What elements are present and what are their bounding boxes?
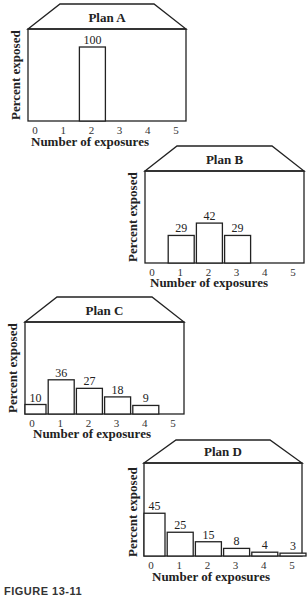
chart-plan-d: Plan D450251152834435 [144, 440, 302, 556]
chart-plan-b: Plan B029142229345 [145, 146, 304, 263]
bar-value-label: 3 [290, 539, 296, 553]
bar-value-label: 29 [175, 221, 187, 235]
chart-title: Plan B [206, 152, 244, 167]
x-tick-label: 5 [289, 559, 295, 571]
y-axis-label-plan-d: Percent exposed [125, 467, 141, 557]
chart-plan-c: Plan C100361272183945 [25, 297, 184, 414]
y-axis-label-plan-a: Percent exposed [8, 30, 24, 120]
bar [280, 553, 306, 556]
bar-value-label: 100 [83, 33, 101, 47]
bar [168, 235, 194, 263]
bar-value-label: 29 [232, 221, 244, 235]
bar [252, 552, 278, 556]
bar [79, 47, 105, 121]
x-tick-label: 5 [290, 266, 296, 278]
x-tick-label: 5 [170, 417, 176, 429]
chart-svg: Plan D450251152834435 [144, 440, 302, 576]
bar [105, 397, 131, 414]
chart-svg: Plan B029142229345 [145, 146, 304, 283]
plot-frame [28, 29, 186, 121]
x-axis-label-plan-b: Number of exposures [150, 275, 268, 291]
bar [224, 548, 250, 556]
bar [133, 405, 159, 414]
bar [25, 405, 46, 415]
bar [48, 380, 74, 414]
bar-value-label: 9 [143, 391, 149, 405]
bar [195, 542, 221, 556]
chart-title: Plan C [86, 303, 124, 318]
bar [76, 388, 102, 414]
bar-value-label: 8 [234, 534, 240, 548]
chart-title: Plan D [204, 444, 242, 459]
x-axis-label-plan-d: Number of exposures [152, 569, 270, 585]
chart-title: Plan A [88, 10, 126, 25]
bar [167, 532, 193, 556]
bar-value-label: 25 [174, 518, 186, 532]
y-axis-label-plan-c: Percent exposed [5, 323, 21, 413]
chart-svg: Plan A011002345 [28, 4, 186, 141]
bar-value-label: 42 [203, 209, 215, 223]
bar-value-label: 36 [55, 366, 67, 380]
x-tick-label: 5 [173, 124, 179, 136]
chart-plan-a: Plan A011002345 [28, 4, 186, 121]
chart-svg: Plan C100361272183945 [25, 297, 184, 434]
figure-caption: FIGURE 13-11 [4, 585, 82, 595]
bar-value-label: 18 [112, 383, 124, 397]
bar-value-label: 10 [30, 391, 42, 405]
bar-value-label: 27 [83, 374, 95, 388]
bar-value-label: 45 [149, 499, 161, 513]
bar [196, 223, 222, 263]
bar-value-label: 4 [262, 538, 268, 552]
y-axis-label-plan-b: Percent exposed [125, 172, 141, 262]
x-axis-label-plan-a: Number of exposures [31, 134, 149, 150]
bar [144, 513, 165, 556]
x-axis-label-plan-c: Number of exposures [33, 426, 151, 442]
bar-value-label: 15 [202, 528, 214, 542]
bar [225, 235, 251, 263]
